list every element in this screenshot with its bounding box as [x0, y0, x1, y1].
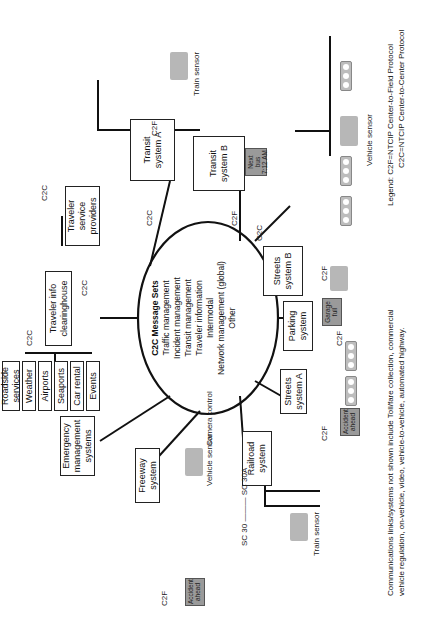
vehicle-sensor-icon [340, 116, 358, 146]
traffic-signal-icon [345, 341, 357, 371]
c2c-label: C2C [40, 185, 49, 201]
freeway-system: Freeway system [135, 448, 160, 503]
traveler-service-providers: Traveler service providers [65, 186, 100, 246]
hub-item: Incident management [172, 248, 183, 388]
legend-c2f: C2F=NTCIP Center-to-Field Protocol [386, 44, 395, 175]
traffic-signal-icon [345, 376, 357, 406]
accident-ahead-sign: Accident ahead [185, 578, 205, 606]
hub-item: Other [227, 248, 238, 388]
traffic-signal-icon [340, 61, 352, 91]
camera-control-label: Camera control [205, 391, 214, 446]
c2c-label: C2C [255, 225, 264, 241]
c2f-label: C2F [150, 121, 159, 136]
traffic-signal-icon [340, 156, 352, 186]
hub-item: Network management (global) [216, 248, 227, 388]
accident-ahead-sign: Accident ahead [340, 408, 360, 436]
hub-item: Transit management [183, 248, 194, 388]
info-source-car-rental: Car rental [70, 361, 84, 411]
c2c-label: C2C [145, 210, 154, 226]
hub-item: Traveler information [194, 248, 205, 388]
emergency-management-systems: Emergency management systems [60, 416, 95, 476]
info-source-seaports: Seaports [54, 361, 68, 411]
ntcip-architecture-diagram: C2C Message Sets Traffic management Inci… [0, 0, 428, 636]
info-source-airports: Airports [38, 361, 52, 411]
vehicle-sensor-icon [185, 448, 203, 476]
next-bus-sign: Next bus 7:12 AM [245, 148, 267, 176]
c2c-label: C2C [25, 330, 34, 346]
c2f-label: C2F [230, 211, 239, 226]
info-source-roadside-services: Roadside services [2, 361, 20, 411]
hub-item: Intermodal [205, 248, 216, 388]
vehicle-sensor-icon [330, 266, 348, 291]
c2c-label: C2C [80, 280, 89, 296]
c2f-label: C2F [320, 426, 329, 441]
info-source-weather: Weather [22, 361, 36, 411]
legend-c2c: C2C=NTCIP Center-to-Center Protocol [397, 30, 406, 168]
hub-title: C2C Message Sets [150, 248, 161, 388]
garage-full-sign: Garage full [322, 298, 342, 326]
vehicle-sensor-label: Vehicle sensor [365, 114, 374, 166]
c2f-label: C2F [160, 591, 169, 606]
footnote-line-1: Communications links/systems not shown i… [385, 309, 396, 596]
footnote-line-2: vehicle regulation, on-vehicle, video, v… [396, 309, 407, 596]
traveler-info-clearinghouse: Traveler info clearinghouse [45, 271, 72, 346]
streets-system-a: Streets system A [280, 369, 307, 414]
train-sensor-icon [170, 52, 188, 80]
hub-item: Traffic management [161, 248, 172, 388]
info-source-events: Events [86, 361, 100, 411]
streets-system-b: Streets system B [263, 246, 303, 296]
train-sensor-label: Train sensor [312, 512, 321, 556]
transit-system-b: Transit system B [193, 136, 245, 191]
legend: Legend: C2F=NTCIP Center-to-Field Protoc… [385, 30, 407, 206]
train-sensor-icon [290, 513, 308, 541]
c2f-label: C2F [335, 331, 344, 346]
traffic-signal-icon [340, 196, 352, 226]
legend-title: Legend: [386, 177, 395, 206]
c2c-message-sets: C2C Message Sets Traffic management Inci… [150, 248, 238, 388]
railroad-crossing-sign: SC 30 ——— SC 30A [240, 468, 249, 546]
c2f-label: C2F [320, 266, 329, 281]
train-sensor-label: Train sensor [192, 52, 201, 96]
parking-system: Parking system [283, 301, 313, 351]
footnote: Communications links/systems not shown i… [385, 309, 407, 596]
